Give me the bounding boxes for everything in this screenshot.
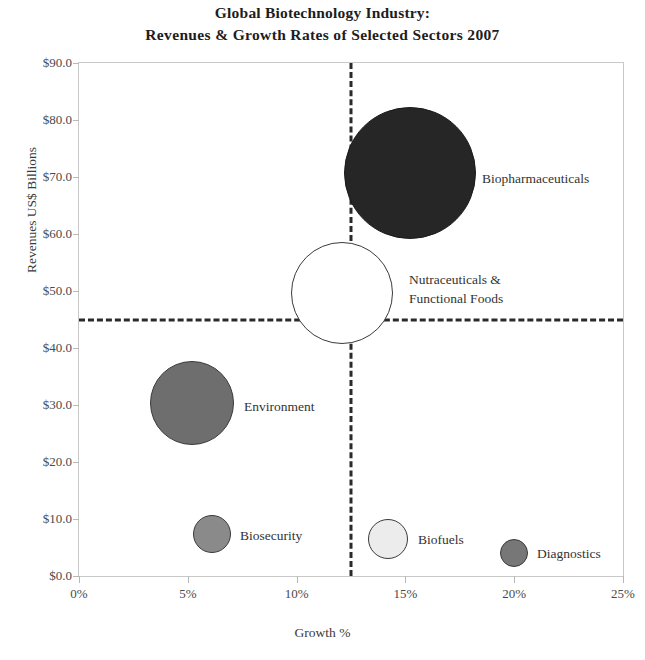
- bubble-biopharmaceuticals[interactable]: [344, 107, 476, 239]
- bubble-label: Biofuels: [418, 530, 464, 549]
- y-tick-mark: [73, 462, 79, 463]
- x-tick-label: 0%: [70, 586, 87, 602]
- x-tick-mark: [405, 576, 406, 583]
- title-line-2: Revenues & Growth Rates of Selected Sect…: [0, 24, 645, 46]
- bubble-diagnostics[interactable]: [500, 539, 528, 567]
- x-tick-label: 20%: [502, 586, 526, 602]
- title-line-1: Global Biotechnology Industry:: [0, 2, 645, 24]
- bubble-label: Diagnostics: [537, 544, 601, 563]
- y-tick-mark: [73, 63, 79, 64]
- bubble-label: Environment: [244, 397, 315, 416]
- bubble-nutraceuticals-functional-foods[interactable]: [291, 242, 393, 344]
- y-tick-mark: [73, 405, 79, 406]
- bubble-biosecurity[interactable]: [193, 515, 231, 553]
- x-tick-mark: [297, 576, 298, 583]
- x-axis-title: Growth %: [0, 625, 645, 641]
- y-tick-mark: [73, 519, 79, 520]
- y-axis-title: Revenues US$ Billions: [24, 60, 40, 360]
- y-tick-mark: [73, 291, 79, 292]
- y-tick-label: $40.0: [43, 340, 72, 356]
- bubble-label: Biosecurity: [240, 526, 302, 545]
- y-tick-label: $10.0: [43, 511, 72, 527]
- y-tick-mark: [73, 348, 79, 349]
- x-tick-mark: [79, 576, 80, 583]
- y-tick-label: $0.0: [49, 568, 72, 584]
- y-tick-mark: [73, 234, 79, 235]
- chart-page: Global Biotechnology Industry: Revenues …: [0, 0, 645, 660]
- y-tick-label: $70.0: [43, 169, 72, 185]
- x-tick-label: 25%: [611, 586, 635, 602]
- x-tick-label: 5%: [179, 586, 196, 602]
- bubble-label: Biopharmaceuticals: [482, 169, 589, 188]
- x-tick-mark: [623, 576, 624, 583]
- y-tick-label: $60.0: [43, 226, 72, 242]
- bubble-environment[interactable]: [150, 361, 234, 445]
- y-tick-mark: [73, 177, 79, 178]
- x-tick-mark: [514, 576, 515, 583]
- page-title: Global Biotechnology Industry: Revenues …: [0, 2, 645, 46]
- x-tick-mark: [188, 576, 189, 583]
- y-tick-mark: [73, 120, 79, 121]
- bubble-biofuels[interactable]: [368, 519, 408, 559]
- x-tick-label: 10%: [285, 586, 309, 602]
- y-tick-label: $30.0: [43, 397, 72, 413]
- plot-area: $0.0$10.0$20.0$30.0$40.0$50.0$60.0$70.0$…: [78, 62, 624, 577]
- y-tick-label: $20.0: [43, 454, 72, 470]
- x-tick-label: 15%: [393, 586, 417, 602]
- bubble-label: Nutraceuticals & Functional Foods: [409, 270, 503, 308]
- y-tick-label: $90.0: [43, 55, 72, 71]
- y-tick-label: $80.0: [43, 112, 72, 128]
- y-tick-label: $50.0: [43, 283, 72, 299]
